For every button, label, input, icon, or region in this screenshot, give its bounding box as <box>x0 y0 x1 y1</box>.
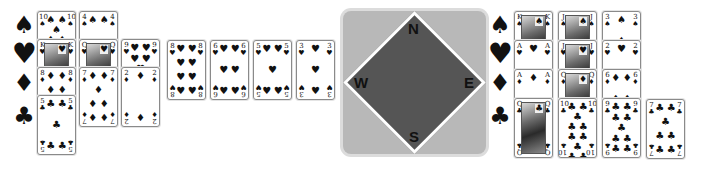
pip-icon: ♥ <box>130 43 140 53</box>
card-suit-icon: ♦ <box>579 75 587 84</box>
card-5-of-clubs[interactable]: 5♣5♣5♣5♣♣♣♣♣♣ <box>37 95 76 155</box>
pip-icon: ♣ <box>578 152 588 158</box>
pip-icon: ♥ <box>273 86 283 96</box>
pip-icon: ♥ <box>176 58 186 68</box>
card-2-of-diamonds[interactable]: 2♦2♦2♦2♦♦♦ <box>121 67 160 127</box>
pip-icon: ♦ <box>88 99 98 109</box>
compass-south[interactable]: S <box>409 128 419 145</box>
pip-icon: ♥ <box>141 54 151 64</box>
compass-north[interactable]: N <box>408 20 419 37</box>
pip-icon: ♥ <box>130 54 140 64</box>
card-9-of-clubs[interactable]: 9♣9♣9♣9♣♣♣♣♣♣♣♣♣♣ <box>602 98 641 158</box>
card-5-of-hearts[interactable]: 5♥5♥5♥5♥♥♥♥♥♥ <box>253 40 292 100</box>
card-pips: ♥♥♥♥♥♥ <box>218 44 241 96</box>
card-suit-icon: ♣ <box>67 105 74 112</box>
compass-west[interactable]: W <box>354 74 368 91</box>
card-3-of-hearts[interactable]: 3♥3♥3♥3♥♥♥♥ <box>296 40 335 100</box>
pip-icon: ♦ <box>129 71 152 81</box>
club-row-icon: ♣ <box>488 104 512 128</box>
pip-icon: ♦ <box>99 71 109 81</box>
card-suit-icon: ♣ <box>535 104 543 113</box>
pip-icon: ♦ <box>129 113 152 123</box>
card-index: 10♣ <box>588 101 595 115</box>
card-suit-icon: ♠ <box>632 21 639 28</box>
pip-icon: ♦ <box>622 73 632 83</box>
card-suit-icon: ♦ <box>151 77 158 84</box>
card-suit-icon: ♥ <box>197 83 204 90</box>
card-suit-icon: ♦ <box>109 77 116 84</box>
card-rank: 10 <box>588 148 595 155</box>
card-suit-icon: ♠ <box>535 17 543 26</box>
card-suit-icon: ♦ <box>109 110 116 117</box>
heart-row-icon: ♥ <box>12 42 36 66</box>
card-index: 5♣ <box>67 98 74 112</box>
card-index: 7♣ <box>676 102 683 116</box>
card-index: A♦ <box>544 72 551 86</box>
pip-icon: ♥ <box>261 65 284 75</box>
compass-board: N W E S <box>343 11 486 154</box>
pip-icon: ♦ <box>46 71 56 81</box>
pip-icon: ♣ <box>46 141 56 151</box>
card-suit-icon: ♥ <box>326 50 333 57</box>
card-pips: ♥♥♥♥♥♥♥♥ <box>175 44 198 96</box>
card-suit-icon: ♦ <box>67 77 74 84</box>
pip-icon: ♥ <box>522 44 545 54</box>
card-7-of-diamonds[interactable]: 7♦7♦7♦7♦♦♦♦♦♦♦♦ <box>79 67 118 127</box>
card-index: 10♣ <box>588 141 595 155</box>
pip-icon: ♦ <box>57 71 67 81</box>
card-pips: ♣♣♣♣♣♣♣ <box>654 103 677 155</box>
pip-icon: ♦ <box>611 73 621 83</box>
card-suit-icon: ♥ <box>632 50 639 57</box>
diamond-row-icon: ♦ <box>12 71 36 95</box>
card-pips: ♦♦ <box>129 71 152 123</box>
pip-icon: ♥ <box>262 86 272 96</box>
card-index: 6♦ <box>632 72 639 86</box>
card-index: 2♦ <box>151 70 158 84</box>
card-queen-of-clubs[interactable]: Q♣Q♣Q♣Q♣♣ <box>514 98 553 158</box>
card-index: 2♦ <box>151 110 158 124</box>
pip-icon: ♥ <box>304 86 327 96</box>
card-rank: 8 <box>197 90 204 97</box>
card-suit-icon: ♥ <box>151 49 158 56</box>
card-rank: 7 <box>676 149 683 156</box>
pip-icon: ♣ <box>655 103 665 113</box>
card-10-of-clubs[interactable]: 10♣10♣10♣10♣♣♣♣♣♣♣♣♣♣♣ <box>558 98 597 158</box>
pip-icon: ♥ <box>141 43 151 53</box>
card-index: 5♥ <box>283 43 290 57</box>
card-index: 9♣ <box>632 101 639 115</box>
card-suit-icon: ♥ <box>579 46 587 55</box>
pip-icon: ♣ <box>611 144 621 154</box>
pip-icon: ♥ <box>187 44 197 54</box>
card-8-of-hearts[interactable]: 8♥8♥8♥8♥♥♥♥♥♥♥♥♥ <box>167 40 206 100</box>
pip-icon: ♣ <box>611 134 621 144</box>
card-index: 4♠ <box>109 14 116 28</box>
pip-icon: ♦ <box>99 99 109 109</box>
pip-icon: ♣ <box>610 123 633 133</box>
card-index: 2♥ <box>632 43 639 57</box>
card-suit-icon: ♦ <box>151 110 158 117</box>
card-suit-icon: ♥ <box>240 50 247 57</box>
spade-row-icon: ♠ <box>488 13 512 37</box>
pip-icon: ♣ <box>622 113 632 123</box>
pip-icon: ♠ <box>88 15 98 25</box>
pip-icon: ♥ <box>219 44 229 54</box>
pip-icon: ♥ <box>187 58 197 68</box>
pip-icon: ♣ <box>46 99 56 109</box>
card-index: 3♥ <box>326 43 333 57</box>
card-suit-icon: ♠ <box>67 21 74 28</box>
card-suit-icon: ♥ <box>283 50 290 57</box>
pip-icon: ♦ <box>99 113 109 123</box>
compass-east[interactable]: E <box>464 74 474 91</box>
card-rank: 3 <box>326 90 333 97</box>
pip-icon: ♥ <box>230 86 240 96</box>
pip-icon: ♥ <box>176 44 186 54</box>
card-index: 8♥ <box>197 83 204 97</box>
card-7-of-clubs[interactable]: 7♣7♣7♣7♣♣♣♣♣♣♣♣ <box>646 99 685 159</box>
card-index: 7♣ <box>676 142 683 156</box>
card-suit-icon: ♥ <box>58 45 66 54</box>
card-6-of-hearts[interactable]: 6♥6♥6♥6♥♥♥♥♥♥♥ <box>210 40 249 100</box>
card-suit-icon: ♠ <box>579 17 587 26</box>
pip-icon: ♥ <box>304 44 327 54</box>
card-rank: 5 <box>67 145 74 152</box>
pip-icon: ♣ <box>611 102 621 112</box>
